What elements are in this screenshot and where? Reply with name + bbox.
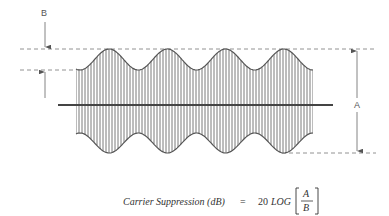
formula-numerator: A: [303, 188, 309, 199]
label-a: A: [354, 100, 360, 110]
formula-function: LOG: [271, 196, 291, 207]
formula-lhs: Carrier Suppression (dB): [123, 196, 225, 207]
label-b: B: [41, 8, 47, 18]
waveform-envelope: [76, 49, 313, 153]
formula-coefficient: 20: [258, 196, 268, 207]
carrier-suppression-formula: Carrier Suppression (dB) = 20 LOG A B: [0, 186, 389, 216]
carrier-suppression-diagram: [0, 0, 389, 216]
formula-denominator: B: [303, 202, 309, 213]
formula-equals: =: [240, 196, 246, 207]
